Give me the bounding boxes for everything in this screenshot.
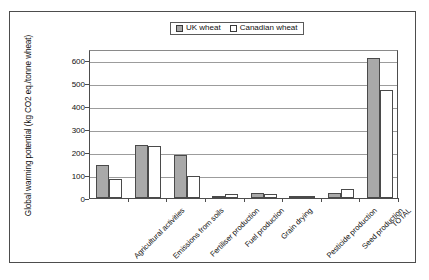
x-axis-category-label: Grain drying [279,206,314,241]
x-axis-tick-marks [89,198,398,203]
legend-label-uk-wheat: UK wheat [186,24,221,32]
bar-group [360,51,399,198]
legend-swatch-canadian-wheat-icon [230,25,237,32]
bar-group [129,51,168,198]
x-axis-tick-mark [398,198,399,202]
y-axis-tick-mark [85,107,89,108]
y-axis-tick-labels: 0100200300400500600 [63,50,85,199]
y-axis-tick-label: 300 [72,126,85,135]
bar-group [167,51,206,198]
bar-canadian-wheat [148,146,161,198]
bar-group [90,51,129,198]
y-axis-tick-label: 500 [72,80,85,89]
legend-label-canadian-wheat: Canadian wheat [240,24,298,32]
plot-area [89,50,398,199]
legend-entry-canadian-wheat: Canadian wheat [230,24,298,32]
bar-canadian-wheat [187,176,200,198]
x-axis-tick-mark [166,198,167,202]
bar-canadian-wheat [341,189,354,198]
bar-uk-wheat [174,155,187,198]
y-axis-tick-mark [85,61,89,62]
y-axis-tick-mark [85,84,89,85]
x-axis-tick-mark [128,198,129,202]
bar-uk-wheat [367,58,380,198]
bar-group [206,51,245,198]
x-axis-category-label: Pesticide production [325,206,379,260]
y-axis-tick-label: 400 [72,103,85,112]
y-axis-tick-label: 200 [72,149,85,158]
bar-group [245,51,284,198]
bar-series-container [90,51,397,198]
y-axis-tick-label: 100 [72,172,85,181]
x-axis-category-label: Agricultural activities [132,206,186,260]
x-axis-tick-mark [205,198,206,202]
x-axis-category-label: TOTAL [389,206,412,229]
x-axis-category-label: Fuel production [243,206,286,249]
y-axis-tick-mark [85,199,89,200]
x-axis-tick-mark [321,198,322,202]
y-axis-tick-mark [85,176,89,177]
bar-canadian-wheat [380,90,393,198]
y-axis-title-text: Global warming potential (kg CO2 eq./ton… [25,34,34,215]
y-axis-tick-label: 600 [72,57,85,66]
chart-legend: UK wheat Canadian wheat [170,22,304,35]
x-axis-category-label: Fertiliser production [209,206,262,259]
y-axis-tick-mark [85,130,89,131]
bar-uk-wheat [135,145,148,198]
y-axis-title: Global warming potential (kg CO2 eq./ton… [22,30,36,220]
bar-group [322,51,361,198]
chart-figure-frame: UK wheat Canadian wheat Global warming p… [9,11,416,263]
bar-uk-wheat [96,165,109,198]
y-axis-tick-mark [85,153,89,154]
x-axis-category-label: Emissions from soils [171,206,226,261]
legend-swatch-uk-wheat-icon [176,25,183,32]
x-axis-tick-mark [359,198,360,202]
bar-group [283,51,322,198]
legend-entry-uk-wheat: UK wheat [176,24,221,32]
x-axis-tick-mark [244,198,245,202]
x-axis-tick-mark [282,198,283,202]
x-axis-category-label: Seed production [360,206,405,251]
bar-canadian-wheat [109,179,122,198]
